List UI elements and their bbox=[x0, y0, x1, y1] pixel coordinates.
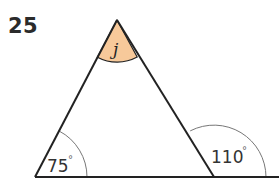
angle-label-110: 110 bbox=[211, 147, 243, 167]
degree-symbol-75: ° bbox=[68, 154, 73, 165]
triangle-side-left bbox=[35, 20, 117, 177]
degree-symbol-110: ° bbox=[242, 145, 247, 156]
triangle-side-right bbox=[117, 20, 214, 177]
triangle-figure: j 75 ° 110 ° bbox=[0, 0, 279, 185]
angle-label-75: 75 bbox=[47, 156, 69, 176]
